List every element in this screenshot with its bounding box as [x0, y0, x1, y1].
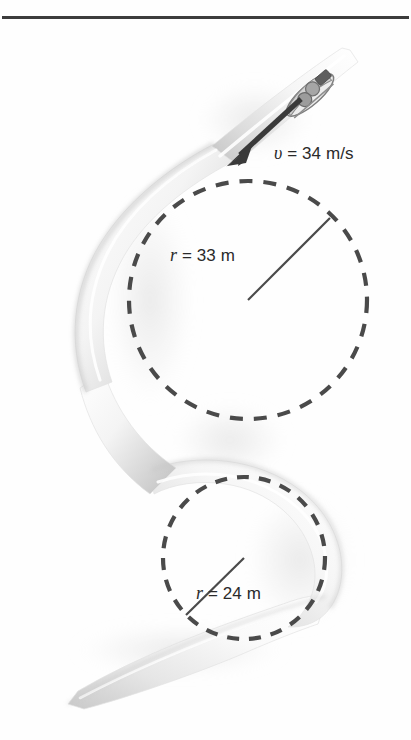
figure-canvas [0, 0, 411, 740]
velocity-label: υ = 34 m/s [274, 143, 354, 164]
upper-radius-equals: = [177, 246, 197, 265]
lower-radius-value: 24 [223, 584, 242, 603]
upper-radius-label: r = 33 m [170, 245, 235, 266]
velocity-equals: = [282, 144, 302, 163]
lower-radius-equals: = [203, 584, 223, 603]
upper-radius-value: 33 [197, 246, 216, 265]
bobsled-curve-figure: υ = 34 m/s r = 33 m r = 24 m [0, 0, 411, 740]
lower-radius-unit: m [242, 584, 261, 603]
velocity-value: 34 [302, 144, 321, 163]
velocity-unit: m/s [321, 144, 354, 163]
upper-radius-line [248, 218, 330, 300]
upper-radius-unit: m [216, 246, 235, 265]
lower-radius-label: r = 24 m [196, 583, 261, 604]
